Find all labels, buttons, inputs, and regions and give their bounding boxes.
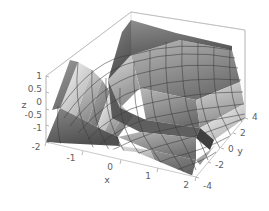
y-tick-label: 0 <box>228 144 234 154</box>
x-axis-title: x <box>104 174 110 185</box>
y-tick-label: -2 <box>215 160 224 170</box>
x-tick-label: 1 <box>145 171 151 181</box>
y-tick-label: -4 <box>203 181 212 191</box>
z-axis-title: z <box>22 99 27 110</box>
y-tick-label: 2 <box>240 128 246 138</box>
y-tick-label: 4 <box>252 112 258 122</box>
x-tick-label: 2 <box>183 180 189 190</box>
z-tick-label: 0 <box>36 97 42 107</box>
surface-plot-figure: 1 0.5 0 -0.5 -1 -2 -1 0 1 2 -4 -2 0 2 4 … <box>0 0 269 211</box>
plot-canvas: 1 0.5 0 -0.5 -1 -2 -1 0 1 2 -4 -2 0 2 4 … <box>0 0 269 211</box>
z-tick-label: 0.5 <box>28 84 42 94</box>
z-tick-label: 1 <box>36 71 42 81</box>
z-tick-label: -1 <box>33 123 42 133</box>
z-tick-label: -0.5 <box>24 110 42 120</box>
x-tick-label: 0 <box>107 162 113 172</box>
y-axis-title: y <box>237 145 243 156</box>
x-tick-label: -1 <box>67 153 76 163</box>
x-tick-label: -2 <box>32 142 41 152</box>
